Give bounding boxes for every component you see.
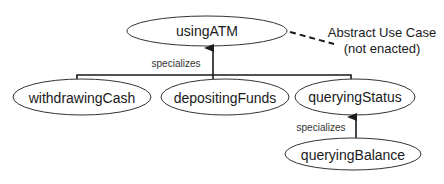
abstract-use-case-note: Abstract Use Case (not enacted) xyxy=(328,25,436,57)
edge-label-specializes-status: specializes xyxy=(297,122,346,133)
use-case-label-querying-status: queryingStatus xyxy=(308,89,401,105)
use-case-label-depositing-funds: depositingFunds xyxy=(174,90,277,106)
use-case-label-querying-balance: queryingBalance xyxy=(301,147,405,163)
note-line-2: (not enacted) xyxy=(328,41,436,57)
use-case-label-withdrawing-cash: withdrawingCash xyxy=(29,90,136,106)
note-line-1: Abstract Use Case xyxy=(328,25,436,41)
use-case-label-using-atm: usingATM xyxy=(176,23,238,39)
edge-label-specializes-top: specializes xyxy=(152,58,201,69)
use-case-diagram: usingATM withdrawingCash depositingFunds… xyxy=(0,0,444,184)
